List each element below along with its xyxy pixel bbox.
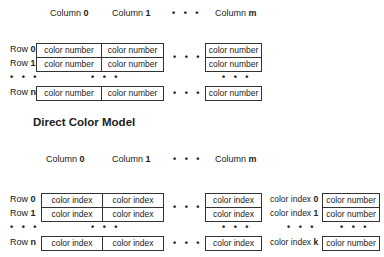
bottom-cell-rn-cm: color index xyxy=(205,236,262,251)
lut-cell-k: color number xyxy=(322,236,380,251)
bottom-column-1-header: Column 1 xyxy=(112,154,151,164)
lut-index-k-label: color index k xyxy=(270,237,318,247)
top-cm-ellipsis: • • • xyxy=(222,72,251,82)
diagram-title: Direct Color Model xyxy=(33,116,135,128)
top-row-n-label: Row n xyxy=(10,87,36,97)
bottom-cm-ellipsis: • • • xyxy=(222,222,251,232)
bottom-cell-rn-c0: color index xyxy=(41,236,103,251)
top-rn-ellipsis: • • • xyxy=(173,88,202,98)
lut-index-1-label: color index 1 xyxy=(270,208,318,218)
bottom-column-m-header: Column m xyxy=(215,154,257,164)
bottom-cell-r1-cm: color index xyxy=(205,207,262,222)
bottom-cell-rn-c1: color index xyxy=(102,236,164,251)
lut-cell-ellipsis: • • • xyxy=(340,222,369,232)
top-cell-r1-cm: color number xyxy=(205,57,262,72)
bottom-rn-ellipsis: • • • xyxy=(173,238,202,248)
bottom-cell-r1-c0: color index xyxy=(41,207,103,222)
top-row-0-label: Row 0 xyxy=(10,44,36,54)
lut-cell-1: color number xyxy=(322,207,380,222)
top-row-1-label: Row 1 xyxy=(10,58,36,68)
top-r01-ellipsis: • • • xyxy=(173,52,202,62)
bottom-cell-r0-c1: color index xyxy=(102,193,164,208)
bottom-column-ellipsis: • • • xyxy=(173,154,202,164)
top-cell-rn-cm: color number xyxy=(205,86,262,101)
top-cell-rn-c1: color number xyxy=(101,86,164,101)
lut-index-ellipsis: • • • xyxy=(287,222,316,232)
top-cell-rn-c0: color number xyxy=(36,86,102,101)
bottom-row-ellipsis: • • • xyxy=(10,222,39,232)
top-cell-r1-c0: color number xyxy=(36,57,102,72)
top-cell-r1-c1: color number xyxy=(101,57,164,72)
bottom-cell-r0-cm: color index xyxy=(205,193,262,208)
bottom-r01-ellipsis: • • • xyxy=(173,202,202,212)
top-column-0-header: Column 0 xyxy=(50,8,89,18)
lut-cell-0: color number xyxy=(322,193,380,208)
bottom-row-n-label: Row n xyxy=(10,237,36,247)
top-column-ellipsis: • • • xyxy=(172,8,201,18)
top-cell-r0-c0: color number xyxy=(36,43,102,58)
top-column-1-header: Column 1 xyxy=(112,8,151,18)
bottom-cell-r0-c0: color index xyxy=(41,193,103,208)
top-row-ellipsis: • • • xyxy=(10,72,39,82)
lut-index-0-label: color index 0 xyxy=(270,194,318,204)
bottom-middle-ellipsis: • • • xyxy=(91,222,120,232)
bottom-cell-r1-c1: color index xyxy=(102,207,164,222)
top-cell-r0-c1: color number xyxy=(101,43,164,58)
bottom-column-0-header: Column 0 xyxy=(46,154,85,164)
top-cell-r0-cm: color number xyxy=(205,43,262,58)
bottom-row-0-label: Row 0 xyxy=(10,194,36,204)
bottom-row-1-label: Row 1 xyxy=(10,208,36,218)
top-column-m-header: Column m xyxy=(215,8,257,18)
top-middle-ellipsis: • • • xyxy=(91,72,120,82)
